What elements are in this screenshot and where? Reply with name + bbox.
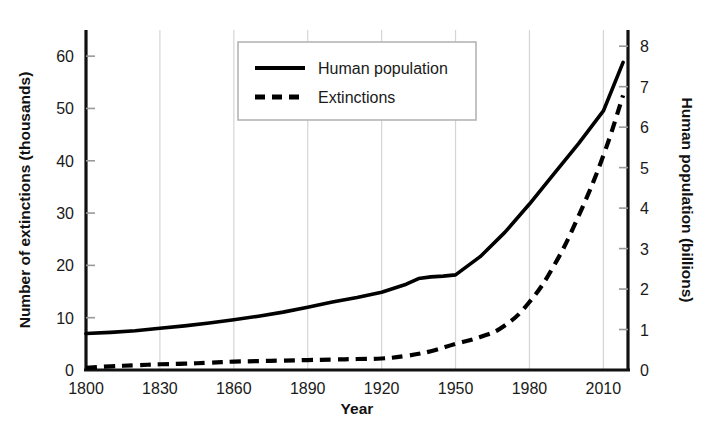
legend: Human population Extinctions: [238, 42, 476, 120]
right-tick-label-8: 8: [640, 38, 649, 55]
right-tick-label-2: 2: [640, 281, 649, 298]
left-axis-title: Number of extinctions (thousands): [16, 72, 33, 329]
extinctions-population-chart: 0102030405060 012345678 1800183018601890…: [0, 0, 706, 422]
right-axis-title: Human population (billions): [679, 98, 696, 303]
x-tick-label-1890: 1890: [290, 380, 326, 397]
right-tick-label-1: 1: [640, 322, 649, 339]
x-axis-title: Year: [341, 400, 374, 417]
x-tick-label-1830: 1830: [142, 380, 178, 397]
left-tick-label-60: 60: [56, 48, 74, 65]
x-tick-label-1800: 1800: [68, 380, 104, 397]
right-tick-label-6: 6: [640, 119, 649, 136]
legend-box: [238, 42, 476, 120]
right-tick-label-0: 0: [640, 362, 649, 379]
right-tick-label-3: 3: [640, 241, 649, 258]
left-tick-label-0: 0: [65, 362, 74, 379]
x-tick-label-1950: 1950: [438, 380, 474, 397]
right-tick-label-7: 7: [640, 79, 649, 96]
x-tick-label-2010: 2010: [586, 380, 622, 397]
left-tick-label-30: 30: [56, 205, 74, 222]
left-tick-label-50: 50: [56, 100, 74, 117]
left-tick-label-40: 40: [56, 153, 74, 170]
x-tick-label-1980: 1980: [512, 380, 548, 397]
right-axis-tick-labels: 012345678: [640, 38, 649, 379]
x-tick-label-1920: 1920: [364, 380, 400, 397]
x-tick-label-1860: 1860: [216, 380, 252, 397]
left-tick-label-20: 20: [56, 257, 74, 274]
right-tick-label-4: 4: [640, 200, 649, 217]
left-tick-label-10: 10: [56, 310, 74, 327]
chart-svg: 0102030405060 012345678 1800183018601890…: [0, 0, 706, 422]
legend-label-human-population: Human population: [318, 60, 448, 77]
right-tick-label-5: 5: [640, 160, 649, 177]
legend-label-extinctions: Extinctions: [318, 89, 395, 106]
